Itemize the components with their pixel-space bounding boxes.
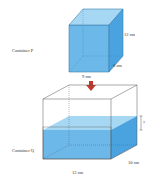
- container-p-label: Container P: [12, 48, 33, 53]
- container-q-depth-label: 10 cm: [128, 160, 139, 165]
- container-q-label: Container Q: [12, 148, 34, 153]
- container-q-box: [43, 85, 143, 159]
- diagram-canvas: [0, 0, 152, 186]
- container-q-water-height-label: ?: [143, 120, 145, 125]
- container-p-width-label: 9 cm: [82, 74, 91, 79]
- container-q-width-label: 12 cm: [72, 170, 83, 175]
- container-p-depth-label: 6 cm: [113, 63, 122, 68]
- down-arrow-icon: [86, 81, 96, 91]
- container-p-height-label: 12 cm: [124, 32, 135, 37]
